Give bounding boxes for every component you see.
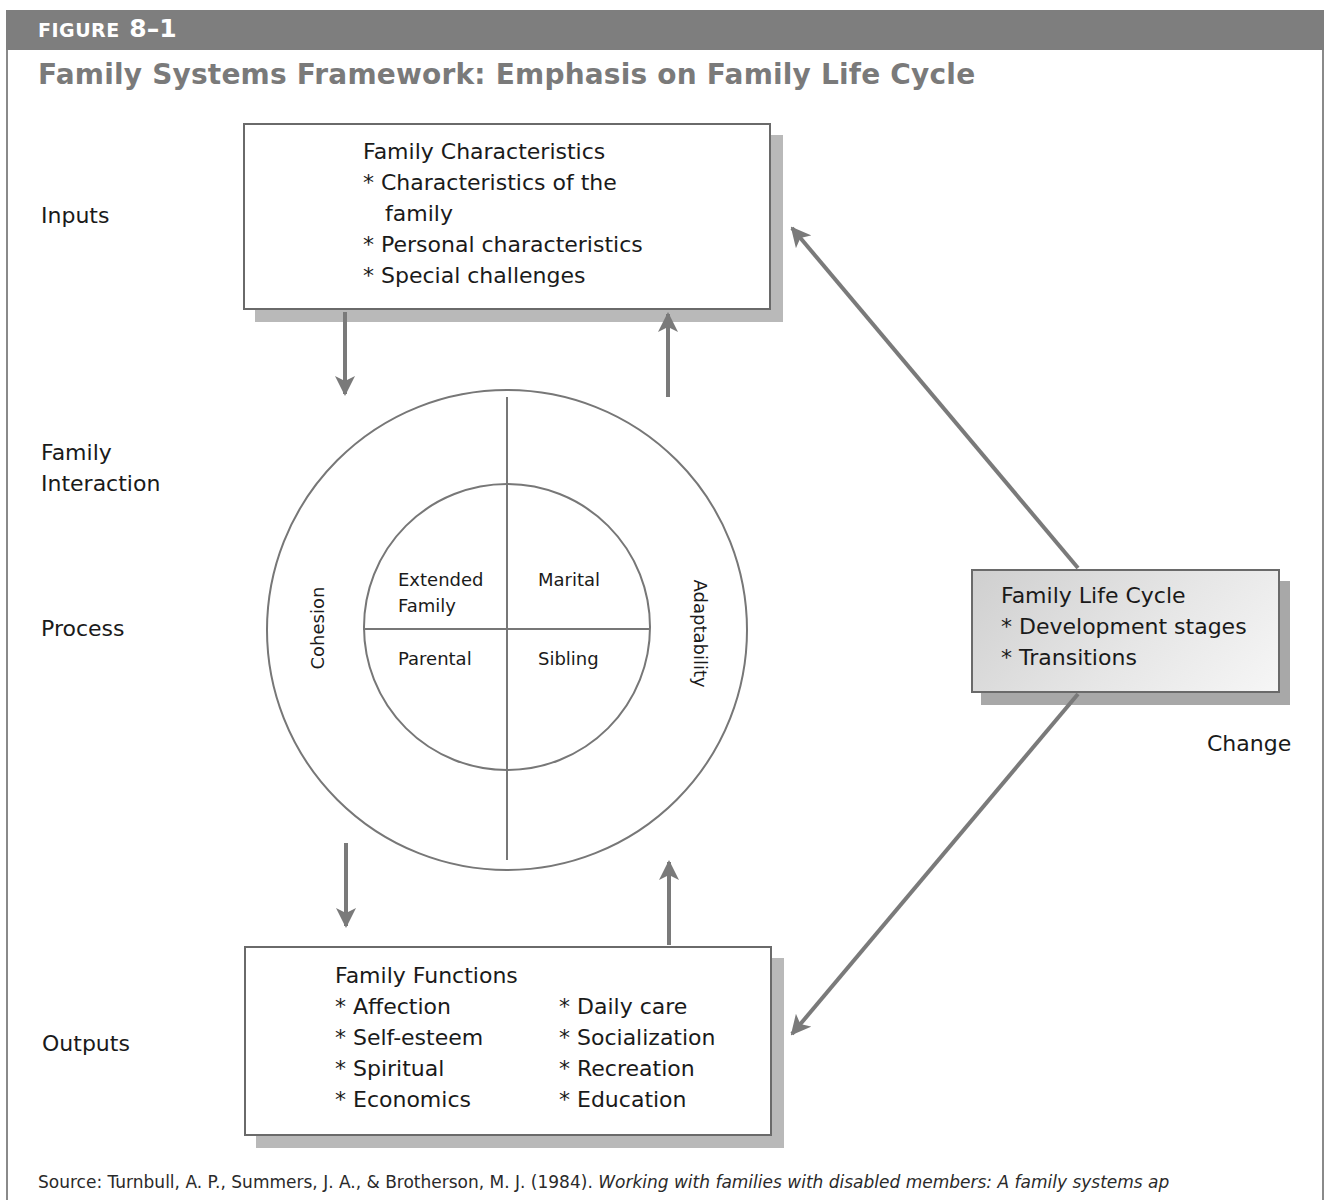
source-citation: Source: Turnbull, A. P., Summers, J. A.,… — [38, 1172, 1169, 1192]
quadrant-marital: Marital — [538, 566, 600, 593]
outer-label-adaptability: Adaptability — [687, 580, 714, 680]
arrow-lifecycle-to-outputs — [792, 694, 1078, 1034]
arrow-lifecycle-to-inputs — [792, 228, 1078, 568]
outer-label-cohesion: Cohesion — [304, 590, 331, 670]
quadrant-extended-family: Family — [398, 592, 456, 619]
source-title: Working with families with disabled memb… — [598, 1172, 1169, 1192]
quadrant-sibling: Sibling — [538, 645, 599, 672]
quadrant-parental: Parental — [398, 645, 472, 672]
process-circle — [267, 390, 747, 870]
quadrant-extended: Extended — [398, 566, 484, 593]
source-prefix: Source: Turnbull, A. P., Summers, J. A.,… — [38, 1172, 598, 1192]
